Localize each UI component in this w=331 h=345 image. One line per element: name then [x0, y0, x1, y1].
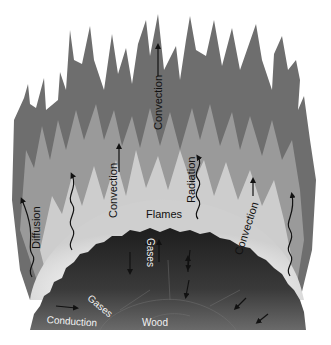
label-flames: Flames	[146, 209, 182, 220]
label-radiation: Radiation	[186, 157, 197, 203]
label-convection-left: Convection	[108, 163, 119, 218]
label-gases-center: Gases	[145, 238, 155, 267]
label-diffusion: Diffusion	[31, 206, 42, 249]
label-wood: Wood	[142, 318, 168, 328]
label-convection-top: Convection	[153, 75, 164, 130]
fire-illustration	[0, 0, 331, 345]
fire-diagram: Convection Convection Radiation Diffusio…	[0, 0, 331, 345]
